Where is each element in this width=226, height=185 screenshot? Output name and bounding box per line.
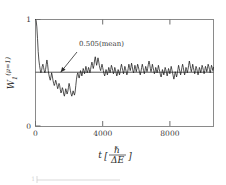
x-axis-label-denominator: ΔE — [110, 155, 124, 165]
x-axis-label-bracket-close: ] — [127, 151, 132, 161]
annotation-mean-value: 0.505 — [79, 40, 99, 48]
x-axis-label: t [ ℏ ΔE ] — [98, 145, 132, 165]
x-tick-label-4000: 4000 — [93, 129, 112, 138]
y-axis-ticks — [36, 20, 41, 127]
x-tick-label-8000: 8000 — [160, 129, 179, 138]
x-tick-label-0: 0 — [33, 129, 38, 138]
figure-container: 1 0 0 4000 8000 0.505 (mean) W1(μ=1) t [… — [0, 0, 226, 185]
annotation-mean-label: (mean) — [99, 40, 124, 48]
plot-frame — [36, 20, 214, 127]
x-axis-label-numerator: ℏ — [114, 145, 120, 155]
y-tick-label-0: 0 — [26, 122, 31, 131]
y-axis-label-superscript: (μ=1) — [4, 56, 12, 75]
svg-text:W1(μ=1): W1(μ=1) — [4, 56, 19, 89]
y-axis-label: W1(μ=1) — [4, 56, 19, 89]
next-figure-fragment: 1 — [31, 175, 120, 183]
chart-svg: 1 0 0 4000 8000 0.505 (mean) W1(μ=1) t [… — [0, 0, 226, 185]
svg-text:1: 1 — [31, 175, 35, 182]
y-tick-label-1: 1 — [26, 15, 31, 24]
x-axis-label-var: t — [98, 150, 102, 160]
x-axis-ticks — [36, 20, 170, 127]
x-axis-label-bracket-open: [ — [104, 151, 108, 161]
data-series-W1 — [36, 20, 214, 97]
